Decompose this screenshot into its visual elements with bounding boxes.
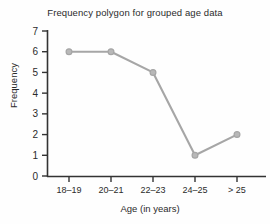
data-point xyxy=(108,49,114,55)
y-tick-label: 7 xyxy=(32,26,38,37)
data-point xyxy=(66,49,72,55)
data-point xyxy=(234,132,240,138)
x-tick-label: 24–25 xyxy=(182,185,207,195)
x-axis-ticks xyxy=(69,177,237,183)
y-tick-label: 1 xyxy=(32,150,38,161)
y-axis-ticks xyxy=(42,31,48,176)
y-tick-label: 2 xyxy=(32,129,38,140)
data-series-line xyxy=(69,52,237,156)
x-tick-label: > 25 xyxy=(228,185,246,195)
plot-area: 01234567 18–1920–2122–2324–25> 25 xyxy=(0,0,270,224)
y-tick-label: 4 xyxy=(32,88,38,99)
x-tick-label: 22–23 xyxy=(140,185,165,195)
x-tick-label: 18–19 xyxy=(56,185,81,195)
x-tick-label: 20–21 xyxy=(98,185,123,195)
data-point xyxy=(150,70,156,76)
data-point-markers xyxy=(66,49,240,158)
y-tick-label: 5 xyxy=(32,67,38,78)
frequency-polygon-chart: Frequency polygon for grouped age data F… xyxy=(0,0,270,224)
data-point xyxy=(192,152,198,158)
y-tick-label: 3 xyxy=(32,108,38,119)
x-axis-tick-labels: 18–1920–2122–2324–25> 25 xyxy=(56,185,245,195)
y-tick-label: 0 xyxy=(32,171,38,182)
y-tick-label: 6 xyxy=(32,46,38,57)
y-axis-tick-labels: 01234567 xyxy=(32,26,38,182)
